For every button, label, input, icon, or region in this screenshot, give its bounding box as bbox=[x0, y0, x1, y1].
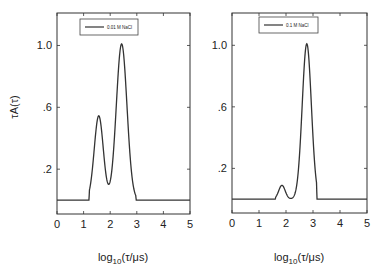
x-tick-label: 5 bbox=[364, 217, 370, 229]
x-tick-label: 1 bbox=[256, 217, 262, 229]
x-tick-label: 0 bbox=[54, 218, 60, 230]
plot-frame bbox=[57, 13, 190, 214]
right-chart-panel: .2.61.0 012345 0.1 M NaCl log10(τ/μs) bbox=[212, 13, 370, 266]
legend: 0.01 M NaCl bbox=[80, 19, 138, 35]
data-line-0.1M-NaCl bbox=[232, 44, 367, 199]
plot-frame bbox=[232, 13, 367, 213]
y-tick-label: .6 bbox=[218, 101, 227, 113]
x-tick-label: 3 bbox=[134, 218, 140, 230]
data-line-0.01M-NaCl bbox=[57, 44, 190, 200]
x-tick-label: 2 bbox=[107, 218, 113, 230]
x-axis-label: log10(τ/μs) bbox=[274, 251, 324, 266]
legend-label: 0.01 M NaCl bbox=[107, 25, 132, 30]
y-tick-label: .2 bbox=[218, 162, 227, 174]
x-tick-label: 2 bbox=[283, 217, 289, 229]
x-axis-ticks: 012345 bbox=[229, 13, 370, 229]
x-tick-label: 3 bbox=[310, 217, 316, 229]
legend: 0.1 M NaCl bbox=[259, 17, 318, 33]
x-axis-ticks: 012345 bbox=[54, 13, 193, 230]
legend-label: 0.1 M NaCl bbox=[286, 23, 309, 28]
y-tick-label: 1.0 bbox=[212, 39, 227, 51]
x-tick-label: 1 bbox=[81, 218, 87, 230]
x-tick-label: 0 bbox=[229, 217, 235, 229]
y-axis-ticks: .2.61.0 bbox=[212, 39, 367, 174]
x-tick-label: 5 bbox=[187, 218, 193, 230]
y-tick-label: .6 bbox=[43, 101, 52, 113]
y-tick-label: 1.0 bbox=[37, 39, 52, 51]
x-axis-label: log10(τ/μs) bbox=[98, 251, 148, 266]
left-chart-panel: .2.61.0 012345 0.01 M NaCl τA(τ) log10(τ… bbox=[8, 13, 193, 266]
x-tick-label: 4 bbox=[337, 217, 343, 229]
x-tick-label: 4 bbox=[160, 218, 166, 230]
figure: .2.61.0 012345 0.01 M NaCl τA(τ) log10(τ… bbox=[0, 0, 386, 272]
y-axis-label: τA(τ) bbox=[8, 95, 20, 118]
y-tick-label: .2 bbox=[43, 163, 52, 175]
